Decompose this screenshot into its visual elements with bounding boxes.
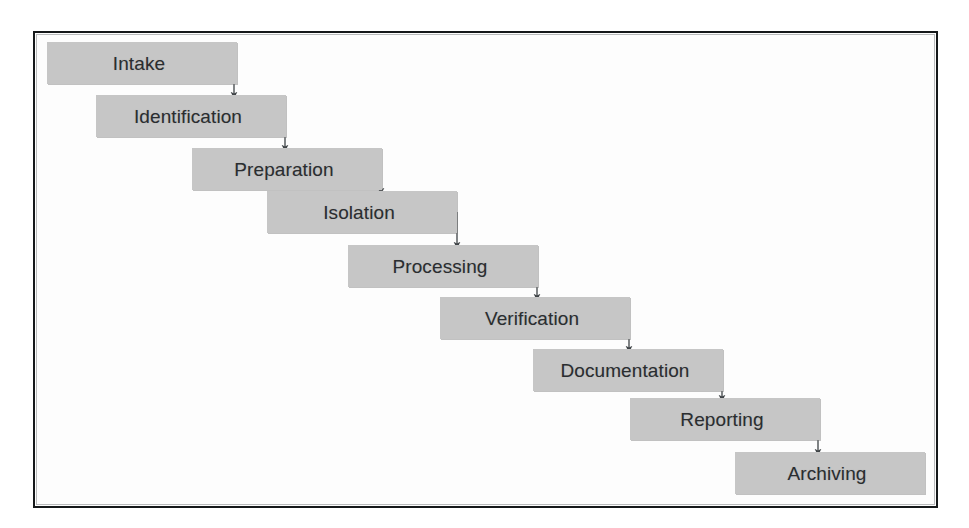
stage-label: Verification — [485, 309, 579, 328]
stage-box-processing[interactable]: Processing — [348, 245, 538, 287]
stage-box-isolation[interactable]: Isolation — [267, 191, 457, 233]
diagram-canvas: IntakeIdentificationPreparationIsolation… — [0, 0, 969, 528]
stage-box-reporting[interactable]: Reporting — [630, 398, 820, 440]
waterfall-flowchart: IntakeIdentificationPreparationIsolation… — [0, 0, 969, 528]
stage-label: Reporting — [680, 410, 763, 429]
stage-label: Preparation — [234, 160, 333, 179]
stage-box-intake[interactable]: Intake — [47, 42, 237, 84]
stage-label: Processing — [393, 257, 488, 276]
stage-label: Identification — [134, 107, 242, 126]
stage-box-identification[interactable]: Identification — [96, 95, 286, 137]
stage-label: Isolation — [323, 203, 395, 222]
stage-box-preparation[interactable]: Preparation — [192, 148, 382, 190]
stage-label: Documentation — [560, 361, 689, 380]
stage-box-verification[interactable]: Verification — [440, 297, 630, 339]
stage-label: Intake — [113, 54, 165, 73]
stage-box-archiving[interactable]: Archiving — [735, 452, 925, 494]
stage-label: Archiving — [787, 464, 866, 483]
stage-box-documentation[interactable]: Documentation — [533, 349, 723, 391]
